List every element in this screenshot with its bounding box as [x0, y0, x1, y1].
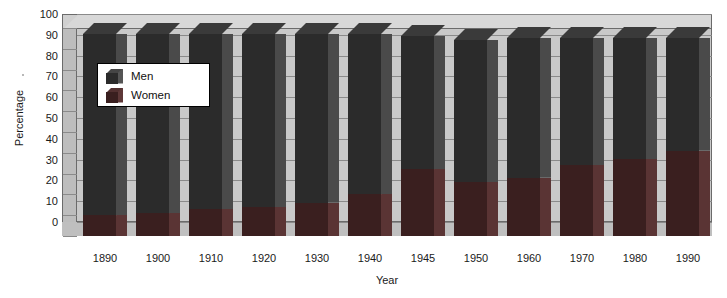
y-tick-20: 20 — [26, 175, 58, 186]
y-tick-70: 70 — [26, 71, 58, 82]
bar-group-1970 — [560, 14, 593, 236]
x-tick-1945: 1945 — [411, 252, 435, 264]
bar-segment-women-1930 — [295, 203, 328, 236]
legend-label-women: Women — [131, 89, 170, 101]
y-tick-100: 100 — [26, 9, 58, 20]
y-axis-tick-labels: 1009080706050403020100 — [26, 0, 58, 298]
axis-tick-mark — [63, 236, 77, 237]
y-tick-50: 50 — [26, 113, 58, 124]
bar-group-1940 — [348, 14, 381, 236]
bar-segment-men-1960 — [507, 38, 540, 177]
legend-item-women: Women — [106, 85, 170, 105]
bar-segment-men-1970 — [560, 38, 593, 165]
y-axis-title: Percentage — [13, 63, 25, 173]
y-tick-60: 60 — [26, 92, 58, 103]
bar-segment-men-1920 — [242, 34, 275, 207]
bar-segment-women-1970 — [560, 165, 593, 236]
bar-segment-women-1960 — [507, 178, 540, 236]
y-tick-0: 0 — [26, 217, 58, 228]
y-tick-90: 90 — [26, 29, 58, 40]
bar-segment-women-1990 — [666, 151, 699, 236]
legend-item-men: Men — [106, 66, 153, 86]
bar-group-1900 — [136, 14, 169, 236]
bar-segment-men-1980 — [613, 38, 646, 159]
bar-group-1950 — [454, 14, 487, 236]
bar-series-container — [62, 14, 712, 236]
x-tick-1890: 1890 — [93, 252, 117, 264]
x-tick-1930: 1930 — [305, 252, 329, 264]
bar-segment-women-1910 — [189, 209, 222, 236]
x-tick-1900: 1900 — [146, 252, 170, 264]
bar-segment-women-1900 — [136, 213, 169, 236]
legend-swatch-women-icon — [106, 88, 123, 103]
bar-segment-men-1940 — [348, 34, 381, 194]
bar-group-1930 — [295, 14, 328, 236]
bar-segment-men-1890 — [83, 34, 116, 215]
y-tick-10: 10 — [26, 196, 58, 207]
x-tick-1940: 1940 — [358, 252, 382, 264]
x-axis-tick-labels: 1890190019101920193019401945195019601970… — [62, 252, 712, 268]
bar-segment-men-1910 — [189, 34, 222, 209]
chart-legend: Men Women — [97, 63, 210, 107]
bar-group-1920 — [242, 14, 275, 236]
bar-group-1980 — [613, 14, 646, 236]
plot-area — [62, 14, 712, 236]
x-tick-1980: 1980 — [623, 252, 647, 264]
x-axis-title: Year — [62, 274, 712, 286]
legend-swatch-men-icon — [106, 69, 123, 84]
bar-segment-women-1920 — [242, 207, 275, 236]
x-tick-1960: 1960 — [517, 252, 541, 264]
bar-segment-women-1950 — [454, 182, 487, 236]
bar-segment-men-1900 — [136, 34, 169, 213]
x-tick-1920: 1920 — [252, 252, 276, 264]
bar-group-1960 — [507, 14, 540, 236]
bar-segment-men-1930 — [295, 34, 328, 202]
bar-segment-men-1990 — [666, 38, 699, 150]
y-tick-80: 80 — [26, 50, 58, 61]
x-tick-1970: 1970 — [570, 252, 594, 264]
bar-group-1890 — [83, 14, 116, 236]
bar-segment-men-1950 — [454, 40, 487, 181]
x-tick-1990: 1990 — [676, 252, 700, 264]
bar-segment-women-1890 — [83, 215, 116, 236]
bar-group-1945 — [401, 14, 434, 236]
y-tick-30: 30 — [26, 154, 58, 165]
bar-group-1910 — [189, 14, 222, 236]
x-tick-1950: 1950 — [464, 252, 488, 264]
legend-label-men: Men — [131, 70, 153, 82]
bar-segment-women-1940 — [348, 194, 381, 236]
bar-segment-women-1980 — [613, 159, 646, 236]
bar-group-1990 — [666, 14, 699, 236]
x-tick-1910: 1910 — [199, 252, 223, 264]
y-tick-40: 40 — [26, 133, 58, 144]
bar-segment-men-1945 — [401, 36, 434, 169]
bar-segment-women-1945 — [401, 169, 434, 236]
stacked-bar-chart: Percentage 1009080706050403020100 189019… — [0, 0, 727, 298]
